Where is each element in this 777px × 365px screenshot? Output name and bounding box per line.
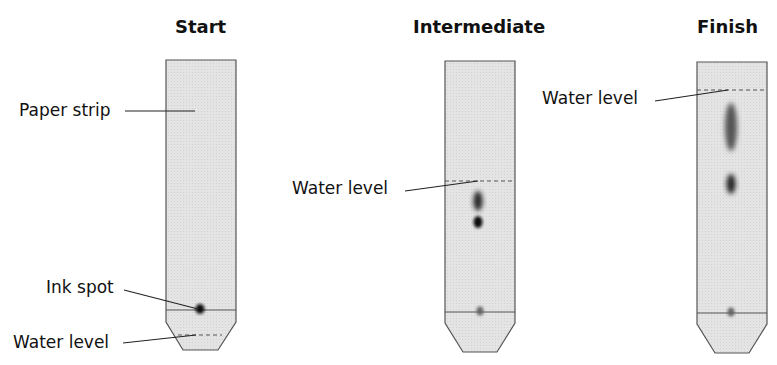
ink-band-lower	[727, 174, 736, 194]
ink-band-1	[474, 191, 483, 211]
ink-residue-intermediate	[477, 307, 484, 316]
label-water-level-intermediate: Water level	[292, 178, 388, 198]
title-finish: Finish	[697, 16, 758, 37]
label-water-level-finish: Water level	[542, 88, 638, 108]
chromatography-diagram	[0, 0, 777, 365]
strip-finish	[655, 62, 767, 353]
label-water-level-start: Water level	[13, 332, 109, 352]
title-start: Start	[175, 16, 226, 37]
strip-intermediate	[405, 61, 515, 352]
label-paper-strip: Paper strip	[19, 100, 111, 120]
strip-start	[123, 60, 236, 350]
ink-band-upper	[725, 103, 737, 151]
label-ink-spot: Ink spot	[46, 277, 114, 297]
ink-residue-finish	[728, 308, 735, 317]
title-intermediate: Intermediate	[413, 16, 545, 37]
ink-band-2	[474, 216, 483, 228]
